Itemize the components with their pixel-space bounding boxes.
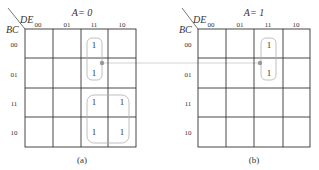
col-var-label: DE [19,14,33,25]
row-label: 10 [185,129,193,137]
cell-value: 1 [267,40,272,50]
row-var-label: BC [6,24,19,35]
cell-value: 1 [120,97,125,107]
kmap-grid [198,29,310,147]
col-label: 01 [64,21,72,29]
row-label: 01 [11,71,19,79]
row-label: 00 [185,41,193,49]
cell-value: 1 [92,127,97,137]
cell-value: 1 [92,97,97,107]
map-b-caption: (b) [249,155,260,165]
kmap-a: A= 0 DE BC 00 01 11 10 00 01 11 10 1 1 [6,7,136,165]
row-label: 10 [11,129,19,137]
map-a-title: A= 0 [71,7,92,18]
col-label: 11 [91,21,98,29]
row-label: 01 [185,71,193,79]
col-label: 11 [265,21,272,29]
cell-value: 1 [267,68,272,78]
connector-dot [258,61,262,65]
col-label: 10 [293,21,301,29]
karnaugh-map-figure: A= 0 DE BC 00 01 11 10 00 01 11 10 1 1 [0,0,319,170]
col-label: 10 [119,21,127,29]
map-b-title: A= 1 [243,7,264,18]
row-var-label: BC [179,24,192,35]
row-label: 11 [11,100,18,108]
cell-value: 1 [120,127,125,137]
cell-value: 1 [92,68,97,78]
col-label: 00 [208,21,216,29]
col-label: 01 [237,21,245,29]
col-var-label: DE [192,14,206,25]
map-a-caption: (a) [77,155,87,165]
row-label: 11 [185,100,192,108]
kmap-b: A= 1 DE BC 00 01 11 10 00 01 11 10 1 1 (… [179,7,310,165]
col-label: 00 [35,21,43,29]
connector-dot [100,61,104,65]
row-label: 00 [11,41,19,49]
cell-value: 1 [92,40,97,50]
